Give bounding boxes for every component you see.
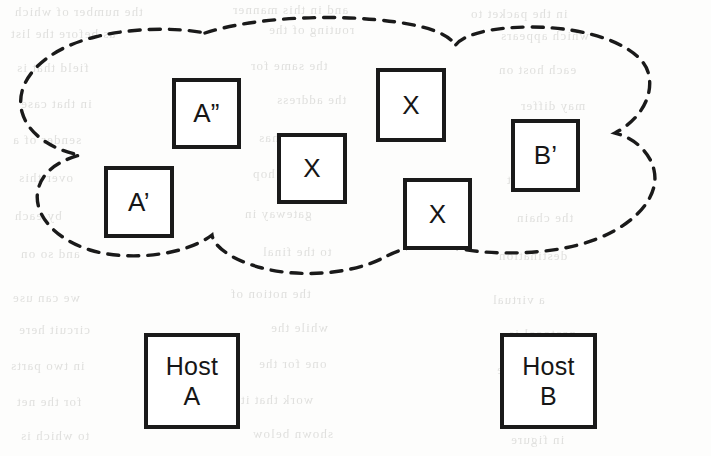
- host-label: Host B: [522, 351, 575, 411]
- node-box-a-double-prime[interactable]: A”: [172, 78, 241, 149]
- host-box-a[interactable]: Host A: [144, 333, 240, 429]
- node-box-x-middle[interactable]: X: [277, 133, 347, 204]
- node-label: X: [429, 200, 447, 228]
- node-label: B’: [534, 141, 558, 169]
- node-label: X: [402, 91, 420, 119]
- node-box-x-top[interactable]: X: [376, 68, 446, 142]
- node-label: X: [303, 154, 321, 182]
- node-box-x-lower[interactable]: X: [403, 178, 472, 250]
- host-box-b[interactable]: Host B: [500, 333, 597, 429]
- node-label: A’: [128, 188, 150, 216]
- host-label: Host A: [166, 351, 219, 411]
- node-box-b-prime[interactable]: B’: [511, 119, 580, 192]
- node-box-a-prime[interactable]: A’: [104, 166, 174, 238]
- node-label: A”: [193, 99, 220, 127]
- diagram-canvas: the number of whichand in this mannerin …: [0, 0, 711, 456]
